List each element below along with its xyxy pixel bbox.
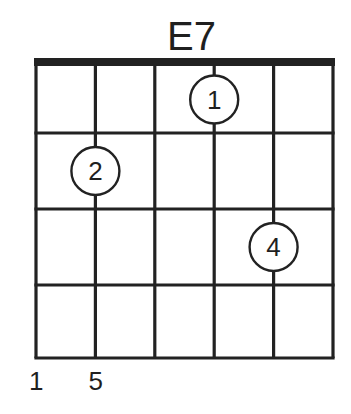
finger-dot: 4 (250, 223, 298, 271)
finger-number: 1 (207, 85, 221, 115)
string-label: 1 (29, 366, 43, 396)
finger-number: 2 (88, 156, 102, 186)
fretboard-grid (34, 58, 335, 358)
finger-positions: 124 (71, 76, 297, 272)
finger-dot: 1 (190, 76, 238, 124)
chord-diagram: 124 (0, 0, 351, 414)
nut (34, 58, 335, 66)
string-label: 5 (88, 366, 102, 396)
finger-number: 4 (266, 232, 280, 262)
finger-dot: 2 (71, 147, 119, 195)
